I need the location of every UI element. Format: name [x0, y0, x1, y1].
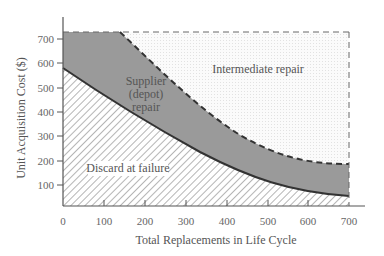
supplier-repair-label-line1: Supplier: [126, 74, 167, 88]
x-tick-700: 700: [341, 215, 358, 227]
x-tick-400: 400: [219, 215, 236, 227]
intermediate-repair-label: Intermediate repair: [212, 62, 304, 76]
y-tick-700: 700: [38, 33, 55, 45]
y-tick-100: 100: [38, 179, 55, 191]
supplier-repair-label-line3: repair: [132, 100, 160, 114]
x-tick-0: 0: [60, 215, 66, 227]
y-axis-label: Unit Acquisition Cost ($): [14, 57, 28, 179]
y-tick-200: 200: [38, 155, 55, 167]
supplier-repair-label-line2: (depot): [129, 87, 164, 101]
x-tick-600: 600: [300, 215, 317, 227]
y-ticks: 700 600 500 400 300 200 100: [38, 33, 64, 191]
x-tick-500: 500: [260, 215, 277, 227]
x-tick-300: 300: [178, 215, 195, 227]
x-tick-200: 200: [137, 215, 154, 227]
discard-at-failure-label: Discard at failure: [86, 161, 169, 175]
y-tick-300: 300: [38, 130, 55, 142]
x-axis-label: Total Replacements in Life Cycle: [135, 233, 296, 247]
y-tick-500: 500: [38, 82, 55, 94]
x-tick-100: 100: [96, 215, 113, 227]
chart: 700 600 500 400 300 200 100 0 100 200 30…: [0, 0, 384, 256]
y-tick-600: 600: [38, 57, 55, 69]
y-tick-400: 400: [38, 106, 55, 118]
